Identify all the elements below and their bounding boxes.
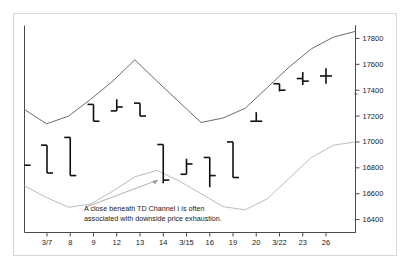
ohlc-bar xyxy=(88,104,100,121)
x-axis-tick-label: 16 xyxy=(206,238,214,247)
x-axis-ticks-group: 3/7891213143/151619203/222326 xyxy=(42,233,330,248)
y-axis-tick-label: 17800 xyxy=(363,34,384,43)
ohlc-bar xyxy=(134,103,146,116)
ohlc-bar xyxy=(111,99,123,111)
x-axis-tick-label: 9 xyxy=(91,238,95,247)
x-axis-tick-label: 14 xyxy=(159,238,167,247)
callout-arrowhead-icon xyxy=(152,180,158,185)
y-axis-tick-label: 16600 xyxy=(363,189,384,198)
y-axis-tick-label: 17200 xyxy=(363,112,384,121)
x-axis-tick-label: 3/22 xyxy=(272,238,287,247)
channel-lines xyxy=(25,31,356,210)
td-channel-upper-line xyxy=(25,31,356,124)
x-axis-tick-label: 26 xyxy=(322,238,330,247)
x-axis-tick-label: 3/15 xyxy=(179,238,194,247)
x-axis-tick-label: 8 xyxy=(68,238,72,247)
y-axis-tick-label: 16800 xyxy=(363,163,384,172)
x-axis-tick-label: 20 xyxy=(252,238,260,247)
ohlc-bar xyxy=(227,142,239,178)
ohlc-bar xyxy=(204,157,216,187)
ohlc-bar xyxy=(297,72,309,85)
x-axis-tick-label: 13 xyxy=(136,238,144,247)
ohlc-bars-group xyxy=(25,68,333,187)
ohlc-bar xyxy=(157,145,169,184)
plot-axes xyxy=(25,26,356,233)
x-axis-tick-label: 23 xyxy=(299,238,307,247)
x-axis-tick-label: 12 xyxy=(113,238,121,247)
x-axis-tick-label: 3/7 xyxy=(42,238,52,247)
ohlc-bar xyxy=(320,68,332,84)
chart-screenshot: 1780017600174001720017000168001660016400… xyxy=(0,0,410,270)
ohlc-bar xyxy=(274,84,286,92)
ohlc-bar xyxy=(64,137,76,175)
y-axis-tick-label: 17400 xyxy=(363,86,384,95)
callout-leader-line xyxy=(86,180,158,207)
td-channel-price-chart: 1780017600174001720017000168001660016400… xyxy=(0,0,410,270)
ohlc-bar xyxy=(181,159,193,175)
annotation-line-1: A close beneath TD Channel I is often xyxy=(84,204,205,213)
y-axis-tick-label: 16400 xyxy=(363,215,384,224)
x-axis-tick-label: 19 xyxy=(229,238,237,247)
annotation-line-2: associated with downside price exhaustio… xyxy=(84,214,222,223)
annotation-callout xyxy=(86,180,158,207)
ohlc-bar xyxy=(250,112,262,121)
y-axis-tick-label: 17600 xyxy=(363,60,384,69)
ohlc-bar xyxy=(41,145,53,173)
y-axis-ticks-group: 1780017600174001720017000168001660016400 xyxy=(355,34,384,224)
y-axis-tick-label: 17000 xyxy=(363,137,384,146)
